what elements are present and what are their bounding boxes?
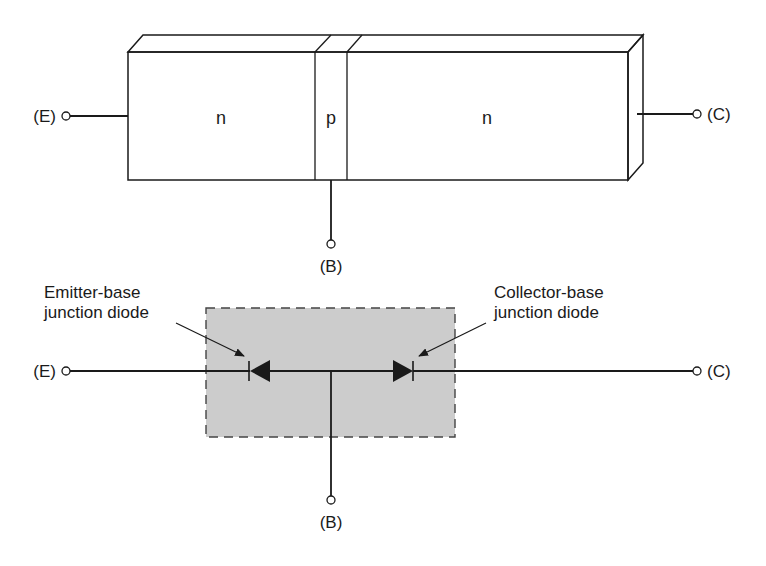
collector-base-annotation-line1: Collector-base [494, 283, 604, 302]
base-collector-boundary-top [347, 35, 362, 52]
base-terminal-circle-icon [327, 240, 335, 248]
collector-terminal-label: (C) [707, 362, 731, 381]
collector-terminal-circle-icon [693, 110, 701, 118]
bottom-base-terminal: (B) [320, 496, 343, 532]
bottom-collector-terminal: (C) [693, 362, 731, 381]
region-label-emitter-n: n [216, 108, 226, 128]
region-label-collector-n: n [482, 108, 492, 128]
block-front-face [128, 52, 628, 180]
region-label-base-p: p [326, 108, 336, 128]
bottom-emitter-terminal: (E) [33, 362, 70, 381]
top-emitter-terminal: (E) [33, 107, 128, 126]
top-collector-terminal: (C) [637, 105, 731, 124]
emitter-base-annotation-line1: Emitter-base [44, 283, 140, 302]
top-base-terminal: (B) [320, 180, 343, 276]
base-terminal-circle-icon [327, 496, 335, 504]
emitter-base-annotation-line2: junction diode [43, 303, 149, 322]
emitter-terminal-circle-icon [62, 367, 70, 375]
npn-transistor-diagram: n p n (E) (C) (B) [0, 0, 766, 566]
semiconductor-block: n p n [128, 35, 643, 180]
block-top-face [128, 35, 643, 52]
block-side-face [628, 35, 643, 180]
emitter-terminal-label: (E) [33, 107, 56, 126]
emitter-terminal-label: (E) [33, 362, 56, 381]
base-terminal-label: (B) [320, 257, 343, 276]
collector-terminal-label: (C) [707, 105, 731, 124]
emitter-base-boundary-top [315, 35, 331, 52]
emitter-terminal-circle-icon [62, 112, 70, 120]
base-terminal-label: (B) [320, 513, 343, 532]
collector-terminal-circle-icon [693, 367, 701, 375]
collector-base-annotation-line2: junction diode [493, 303, 599, 322]
diode-equivalent-circuit [70, 308, 693, 496]
